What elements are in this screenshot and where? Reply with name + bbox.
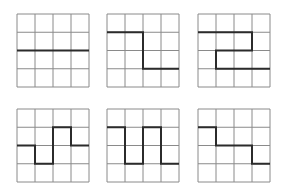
grid-6 bbox=[197, 108, 271, 183]
grid-lines bbox=[106, 108, 180, 183]
grid-lines bbox=[16, 108, 90, 183]
grid-3 bbox=[197, 13, 271, 88]
grid-4 bbox=[16, 108, 90, 183]
grid-lines bbox=[197, 108, 271, 183]
grid-lines bbox=[16, 13, 90, 88]
grid-1 bbox=[16, 13, 90, 88]
grid-path bbox=[17, 127, 89, 164]
grid-lines bbox=[106, 13, 180, 88]
grid-lines bbox=[197, 13, 271, 88]
grid-5 bbox=[106, 108, 180, 183]
grid-2 bbox=[106, 13, 180, 88]
